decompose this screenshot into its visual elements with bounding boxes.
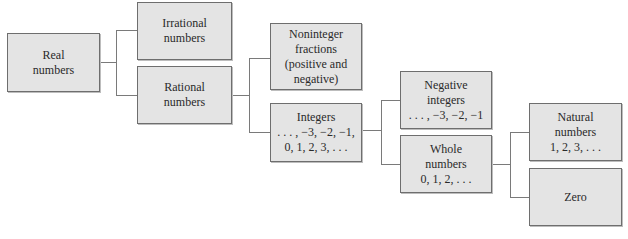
node-label: Noninteger [289, 27, 343, 42]
node-integers: Integers . . . , −3, −2, −1, 0, 1, 2, 3,… [270, 103, 362, 162]
node-label: numbers [164, 95, 205, 110]
node-label: 1, 2, 3, . . . [550, 140, 601, 155]
connector-whole [492, 164, 511, 165]
connector-to-whole [381, 164, 400, 165]
connector-real [100, 62, 117, 63]
node-label: 0, 1, 2, . . . [421, 172, 472, 187]
node-real-numbers: Real numbers [7, 33, 100, 92]
node-rational-numbers: Rational numbers [137, 66, 232, 124]
node-label: Whole [430, 142, 462, 157]
node-whole-numbers: Whole numbers 0, 1, 2, . . . [400, 135, 492, 193]
connector-real-branch [116, 30, 117, 96]
node-natural-numbers: Natural numbers 1, 2, 3, . . . [529, 103, 622, 161]
connector-whole-branch [510, 132, 511, 198]
node-label: Real [43, 48, 65, 63]
connector-to-negative-integers [381, 100, 400, 101]
node-label: 0, 1, 2, 3, . . . [285, 140, 348, 155]
node-irrational-numbers: Irrational numbers [137, 2, 232, 60]
node-label: numbers [33, 63, 74, 78]
node-label: fractions [295, 42, 337, 57]
connector-to-rational [116, 95, 137, 96]
node-label: negative) [294, 72, 339, 87]
connector-rational [232, 95, 250, 96]
node-label: . . . , −3, −2, −1, [277, 125, 354, 140]
node-label: . . . , −3, −2, −1 [409, 108, 483, 123]
node-label: numbers [425, 157, 466, 172]
node-label: (positive and [285, 57, 347, 72]
node-label: numbers [555, 125, 596, 140]
node-label: Irrational [162, 16, 207, 31]
connector-to-irrational [116, 30, 137, 31]
connector-to-zero [510, 197, 529, 198]
node-label: numbers [164, 31, 205, 46]
node-noninteger-fractions: Noninteger fractions (positive and negat… [270, 23, 362, 90]
connector-to-natural [510, 132, 529, 133]
connector-to-noninteger [249, 58, 270, 59]
node-negative-integers: Negative integers . . . , −3, −2, −1 [400, 71, 492, 129]
node-label: Rational [164, 80, 205, 95]
node-zero: Zero [529, 168, 622, 226]
node-label: Zero [564, 190, 587, 205]
connector-integers [362, 130, 382, 131]
node-label: Integers [297, 110, 336, 125]
node-label: Negative [424, 78, 467, 93]
connector-to-integers [249, 132, 270, 133]
node-label: integers [427, 93, 465, 108]
connector-integers-branch [381, 100, 382, 165]
connector-rational-branch [249, 58, 250, 133]
node-label: Natural [558, 110, 594, 125]
